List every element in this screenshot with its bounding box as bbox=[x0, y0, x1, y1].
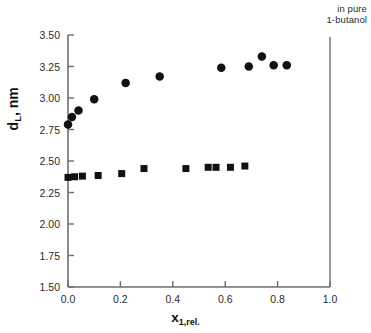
data-point-square-8 bbox=[213, 164, 220, 171]
data-point-square-3 bbox=[95, 172, 102, 179]
data-point-circle-5 bbox=[155, 72, 164, 81]
data-point-square-2 bbox=[79, 173, 86, 180]
annotation-in-pure-1-butanol: in pure 1-butanol bbox=[326, 3, 367, 25]
y-tick-label-5: 2.75 bbox=[18, 124, 60, 136]
x-tick-label-4: 0.8 bbox=[270, 293, 285, 305]
data-point-circle-10 bbox=[283, 61, 292, 70]
x-tick-label-1: 0.2 bbox=[113, 293, 128, 305]
scatter-chart-figure: in pure 1-butanol dL, nm x1,rel. 1.501.7… bbox=[0, 0, 371, 333]
x-tick-label-0: 0.0 bbox=[61, 293, 76, 305]
data-point-circle-3 bbox=[90, 95, 99, 104]
axes bbox=[68, 35, 330, 287]
y-axis-title: dL, nm bbox=[5, 69, 23, 149]
data-point-circle-4 bbox=[121, 79, 130, 88]
data-point-circle-0 bbox=[64, 120, 73, 128]
data-point-circle-9 bbox=[269, 61, 278, 70]
y-tick-label-1: 1.75 bbox=[18, 250, 60, 262]
x-axis-title-subscript: 1,rel. bbox=[179, 317, 200, 327]
data-point-circle-2 bbox=[74, 106, 83, 115]
annotation-line-1: in pure bbox=[326, 3, 367, 14]
data-point-square-7 bbox=[205, 164, 212, 171]
y-tick-label-6: 3.00 bbox=[18, 92, 60, 104]
data-point-square-6 bbox=[182, 165, 189, 172]
data-series-squares bbox=[65, 163, 249, 181]
x-tick-label-2: 0.4 bbox=[165, 293, 180, 305]
y-tick-label-4: 2.50 bbox=[18, 155, 60, 167]
y-tick-label-2: 2.00 bbox=[18, 218, 60, 230]
data-point-circle-7 bbox=[245, 62, 254, 71]
x-tick-label-5: 1.0 bbox=[323, 293, 338, 305]
data-point-circle-8 bbox=[258, 52, 267, 61]
data-series-circles bbox=[64, 52, 291, 129]
data-point-circle-1 bbox=[68, 113, 77, 122]
y-tick-label-3: 2.25 bbox=[18, 187, 60, 199]
y-tick-label-8: 3.50 bbox=[18, 29, 60, 41]
data-point-square-5 bbox=[140, 165, 147, 172]
y-tick-label-7: 3.25 bbox=[18, 61, 60, 73]
data-point-square-4 bbox=[118, 170, 125, 177]
x-tick-label-3: 0.6 bbox=[218, 293, 233, 305]
x-axis-title: x1,rel. bbox=[0, 310, 371, 327]
data-point-square-9 bbox=[227, 164, 234, 171]
data-point-square-0 bbox=[65, 174, 72, 181]
data-point-circle-6 bbox=[217, 64, 226, 73]
data-point-square-10 bbox=[241, 163, 248, 170]
x-axis-title-main: x bbox=[171, 310, 179, 325]
y-axis-title-subscript: L bbox=[12, 116, 23, 122]
data-point-square-1 bbox=[71, 173, 78, 180]
y-tick-label-0: 1.50 bbox=[18, 281, 60, 293]
annotation-line-2: 1-butanol bbox=[326, 14, 367, 25]
